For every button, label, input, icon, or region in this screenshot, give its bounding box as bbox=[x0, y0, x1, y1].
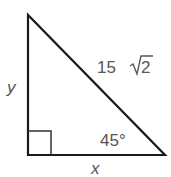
label-y: y bbox=[7, 79, 16, 96]
triangle-figure bbox=[0, 0, 171, 177]
label-hypotenuse-radicand: 2 bbox=[141, 59, 150, 76]
label-x: x bbox=[91, 160, 100, 177]
right-triangle bbox=[28, 15, 165, 155]
label-angle: 45° bbox=[100, 132, 126, 149]
right-angle-marker bbox=[28, 131, 51, 155]
label-hypotenuse-coefficient: 15 bbox=[97, 59, 116, 76]
